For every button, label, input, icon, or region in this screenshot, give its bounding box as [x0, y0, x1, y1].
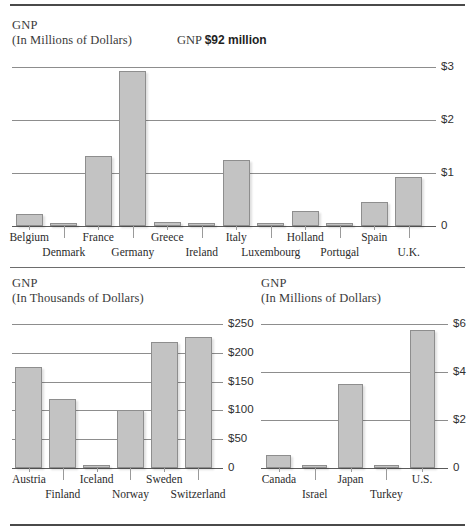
chart-nordic-title: GNP — [12, 276, 38, 290]
x-axis-category-label: Ireland — [185, 246, 218, 259]
bar-finland — [49, 399, 76, 468]
x-axis-tick — [29, 226, 30, 230]
bar-italy — [223, 160, 250, 226]
chart-world-title: GNP — [261, 276, 287, 290]
top-divider-rule — [10, 4, 465, 6]
x-axis-category-label: Switzerland — [171, 488, 226, 501]
chart-nordic-gnp: GNP (In Thousands of Dollars) 0$50$100$1… — [0, 272, 250, 522]
x-axis-category-label: Austria — [12, 473, 46, 486]
x-axis-tick — [198, 468, 199, 480]
bar-u-s- — [410, 330, 435, 468]
y-axis-tick-label: $150 — [228, 375, 254, 387]
x-axis-category-label: Denmark — [42, 246, 85, 259]
x-axis-tick — [374, 226, 375, 230]
axis-baseline — [261, 468, 448, 469]
y-axis-tick-label: $100 — [228, 403, 254, 415]
x-axis-tick — [305, 226, 306, 230]
chart-europe-annotation: GNP $92 million — [177, 33, 267, 48]
x-axis-tick — [236, 226, 237, 230]
axis-baseline — [12, 226, 436, 227]
x-axis-category-label: Spain — [361, 231, 387, 244]
y-axis-tick-label: 0 — [453, 461, 459, 473]
y-axis-tick-label: $1 — [441, 166, 454, 178]
axis-baseline — [12, 468, 223, 469]
bar-france — [85, 156, 112, 226]
chart-europe-title: GNP — [12, 18, 38, 32]
bar-holland — [292, 211, 319, 226]
x-axis-tick — [133, 226, 134, 238]
y-axis-tick-label: $2 — [453, 413, 466, 425]
y-axis-tick-label: $2 — [441, 113, 454, 125]
x-axis-tick — [64, 226, 65, 238]
x-axis-tick — [29, 468, 30, 472]
bar-austria — [15, 367, 42, 468]
x-axis-tick — [63, 468, 64, 480]
x-axis-category-label: Israel — [302, 488, 328, 501]
x-axis-tick — [167, 226, 168, 230]
x-axis-category-label: Turkey — [370, 488, 403, 501]
x-axis-tick — [271, 226, 272, 238]
gridline — [12, 120, 436, 121]
gridline — [12, 67, 436, 68]
x-axis-tick — [340, 226, 341, 238]
x-axis-category-label: Norway — [112, 488, 149, 501]
x-axis-category-label: U.S. — [412, 473, 432, 486]
x-axis-tick — [279, 468, 280, 472]
bar-norway — [117, 410, 144, 468]
bar-spain — [361, 202, 388, 226]
chart-page: GNP (In Millions of Dollars) GNP $92 mil… — [0, 0, 471, 530]
bar-u-k- — [395, 177, 422, 226]
x-axis-category-label: Iceland — [80, 473, 114, 486]
x-axis-category-label: U.K. — [398, 246, 420, 259]
x-axis-tick — [130, 468, 131, 480]
x-axis-tick — [409, 226, 410, 238]
x-axis-category-label: Holland — [287, 231, 324, 244]
x-axis-tick — [315, 468, 316, 480]
x-axis-category-label: Belgium — [9, 231, 49, 244]
chart-europe-plot: 0$1$2$3BelgiumDenmarkFranceGermanyGreece… — [12, 54, 426, 226]
y-axis-tick-label: $3 — [441, 60, 454, 72]
x-axis-category-label: Canada — [262, 473, 296, 486]
chart-nordic-plot: 0$50$100$150$200$250AustriaFinlandIcelan… — [12, 317, 215, 468]
x-axis-category-label: Italy — [226, 231, 247, 244]
chart-europe-gnp: GNP (In Millions of Dollars) GNP $92 mil… — [0, 14, 471, 264]
chart-world-subtitle: (In Millions of Dollars) — [261, 291, 381, 306]
bar-sweden — [151, 342, 178, 468]
x-axis-category-label: Sweden — [146, 473, 182, 486]
bottom-divider-rule — [10, 524, 465, 526]
y-axis-tick-label: $200 — [228, 346, 254, 358]
y-axis-tick-label: $250 — [228, 317, 254, 329]
x-axis-category-label: Japan — [337, 473, 363, 486]
gridline — [261, 324, 448, 325]
bar-canada — [266, 455, 291, 468]
bar-switzerland — [185, 337, 212, 468]
chart-nordic-subtitle: (In Thousands of Dollars) — [12, 291, 144, 306]
y-axis-tick-label: 0 — [441, 219, 447, 231]
x-axis-category-label: Germany — [111, 246, 154, 259]
x-axis-category-label: Greece — [151, 231, 184, 244]
chart-world-gnp: GNP (In Millions of Dollars) 0$2$4$6Cana… — [253, 272, 471, 522]
y-axis-tick-label: $4 — [453, 365, 466, 377]
x-axis-tick — [97, 468, 98, 472]
x-axis-tick — [351, 468, 352, 472]
y-axis-tick-label: $50 — [228, 432, 247, 444]
bar-belgium — [16, 214, 43, 226]
middle-divider-rule — [10, 267, 465, 268]
x-axis-tick — [164, 468, 165, 472]
chart-europe-subtitle: (In Millions of Dollars) — [12, 33, 132, 48]
x-axis-tick — [422, 468, 423, 472]
x-axis-category-label: France — [83, 231, 114, 244]
x-axis-category-label: Finland — [45, 488, 80, 501]
y-axis-tick-label: $6 — [453, 317, 466, 329]
chart-world-plot: 0$2$4$6CanadaIsraelJapanTurkeyU.S. — [261, 317, 440, 468]
x-axis-tick — [98, 226, 99, 230]
y-axis-tick-label: 0 — [228, 461, 234, 473]
x-axis-tick — [202, 226, 203, 238]
bar-japan — [338, 384, 363, 468]
x-axis-tick — [386, 468, 387, 480]
annotation-value: $92 million — [205, 33, 267, 47]
x-axis-category-label: Luxembourg — [241, 246, 300, 259]
annotation-prefix: GNP — [177, 33, 202, 47]
x-axis-category-label: Portugal — [320, 246, 359, 259]
gridline — [12, 324, 223, 325]
